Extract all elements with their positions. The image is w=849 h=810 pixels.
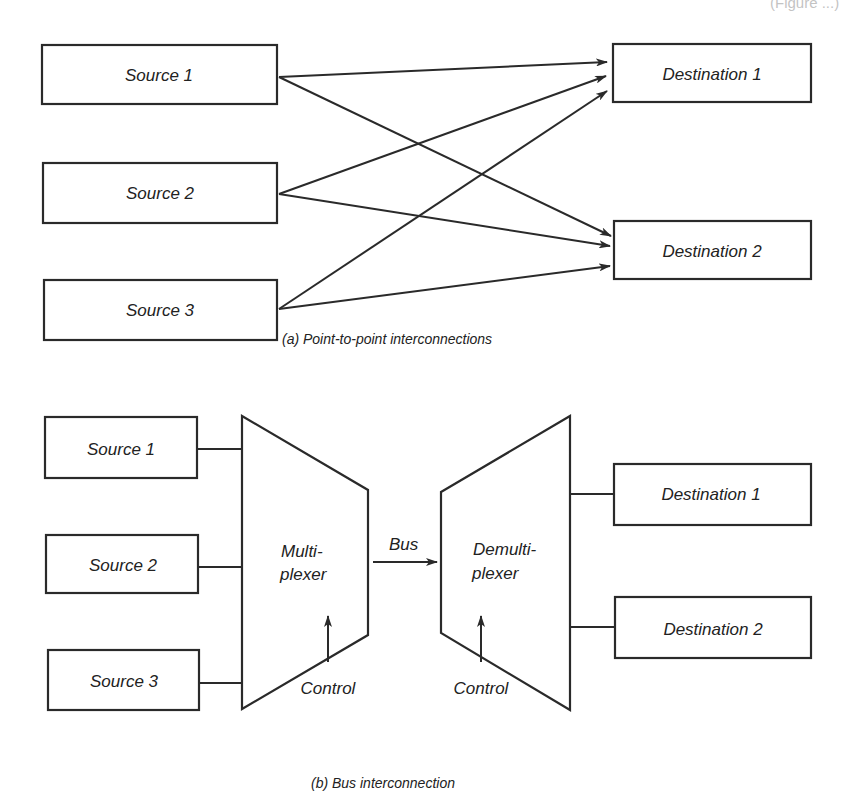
panel-a-source-2-label: Source 2	[126, 184, 195, 203]
bus-label: Bus	[389, 535, 419, 554]
panel-b-bus: Source 1 Source 2 Source 3 Multi- plexer…	[45, 416, 811, 791]
panel-b-source-1-label: Source 1	[87, 440, 155, 459]
arrow-s1-to-d2	[279, 77, 611, 236]
panel-a-destination-2: Destination 2	[614, 221, 811, 279]
panel-a-caption: (a) Point-to-point interconnections	[282, 331, 492, 347]
panel-a-destination-1-label: Destination 1	[662, 65, 761, 84]
panel-a-point-to-point: Source 1 Source 2 Source 3 Destination 1…	[42, 44, 811, 347]
panel-b-destination-1: Destination 1	[614, 464, 811, 525]
figure-canvas: (Figure ...) Source 1 Source 2 Source 3 …	[0, 0, 849, 810]
demultiplexer: Demulti- plexer	[441, 416, 570, 710]
panel-b-source-3-label: Source 3	[90, 672, 159, 691]
multiplexer: Multi- plexer	[242, 416, 368, 709]
panel-b-destination-2-label: Destination 2	[663, 620, 763, 639]
panel-b-source-3: Source 3	[48, 650, 199, 710]
arrow-s1-to-d1	[279, 62, 607, 77]
mux-control-label: Control	[301, 679, 357, 698]
arrow-s2-to-d1	[279, 76, 606, 194]
arrow-s3-to-d2	[279, 266, 610, 309]
panel-a-destination-1: Destination 1	[613, 44, 811, 102]
demultiplexer-label-line2: plexer	[471, 564, 520, 583]
demux-control-label: Control	[454, 679, 510, 698]
panel-a-source-2: Source 2	[43, 163, 277, 223]
panel-a-destination-2-label: Destination 2	[662, 242, 762, 261]
panel-b-destination-2: Destination 2	[615, 597, 811, 658]
arrow-s3-to-d1	[279, 91, 607, 309]
panel-b-destination-1-label: Destination 1	[661, 485, 760, 504]
panel-a-source-1: Source 1	[42, 45, 277, 104]
panel-b-source-2: Source 2	[46, 535, 198, 593]
panel-b-source-1: Source 1	[45, 417, 197, 478]
header-fragment: (Figure ...)	[770, 0, 839, 11]
demultiplexer-label-line1: Demulti-	[473, 540, 537, 559]
panel-a-source-3: Source 3	[44, 280, 277, 340]
multiplexer-label-line2: plexer	[279, 565, 328, 584]
panel-a-source-3-label: Source 3	[126, 301, 195, 320]
multiplexer-label-line1: Multi-	[281, 542, 323, 561]
panel-b-source-2-label: Source 2	[89, 556, 158, 575]
panel-b-caption: (b) Bus interconnection	[311, 775, 455, 791]
arrow-s2-to-d2	[279, 194, 610, 246]
panel-a-source-1-label: Source 1	[125, 66, 193, 85]
